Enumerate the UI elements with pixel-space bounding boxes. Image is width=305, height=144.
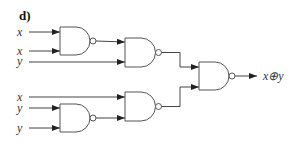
wire-g3-to-g5 [162,87,200,107]
wire-g2-to-g5 [162,53,200,68]
input-label-x1: x [16,25,23,39]
figure-label: d) [19,8,31,23]
input-label-y2: y [16,101,23,115]
input-label-y3: y [16,121,23,135]
nand-gate-2 [125,38,162,67]
wire-g1-to-g2 [96,41,125,42]
nand-gate-4 [60,104,96,132]
nand-gate-1 [60,27,96,55]
input-label-y1: y [16,54,23,68]
nand-gate-3 [125,92,162,121]
output-label: x⊕y [262,69,284,83]
nand-xor-circuit: d) x x y x y y x⊕y [0,0,305,144]
nand-gate-5 [199,62,235,90]
